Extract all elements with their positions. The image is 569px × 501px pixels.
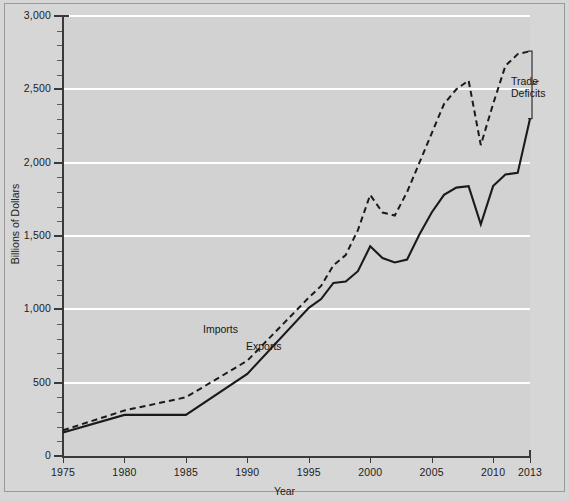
y-axis-line [62,16,64,458]
annotation-exports: Exports [246,340,282,352]
x-tick-label-2013: 2013 [505,466,555,478]
y-axis-top-cap [62,15,69,17]
y-tick-label-500: 500 [0,376,51,388]
x-tick-label-1980: 1980 [99,466,149,478]
gridline-500 [63,382,530,384]
annotation-imports: Imports [203,323,238,335]
y-tick-label-2000: 2,000 [0,156,51,168]
x-tick-label-2005: 2005 [407,466,457,478]
y-tick-label-2500: 2,500 [0,82,51,94]
gridline-1000 [63,308,530,310]
x-tick-label-1985: 1985 [161,466,211,478]
y-tick-label-1000: 1,000 [0,302,51,314]
x-tick-label-2000: 2000 [345,466,395,478]
x-tick-label-1995: 1995 [284,466,334,478]
chart-figure: 05001,0001,5002,0002,5003,000 1975198019… [0,0,569,501]
trade-deficits-line2: Deficits [511,87,545,99]
x-tick-label-1975: 1975 [38,466,88,478]
x-tick-label-1990: 1990 [222,466,272,478]
y-axis-title: Billions of Dollars [9,139,21,309]
gridline-2500 [63,88,530,90]
y-tick-label-0: 0 [0,449,51,461]
gridline-1500 [63,235,530,237]
y-tick-label-1500: 1,500 [0,229,51,241]
x-axis-line [62,456,531,458]
y-tick-label-3000: 3,000 [0,9,51,21]
gridline-2000 [63,162,530,164]
annotation-trade-deficits: Trade Deficits [511,75,545,99]
gridline-3000 [63,15,530,17]
x-axis-title: Year [0,485,569,497]
x-axis-right-cap [529,450,531,458]
trade-deficits-line1: Trade [511,75,538,87]
